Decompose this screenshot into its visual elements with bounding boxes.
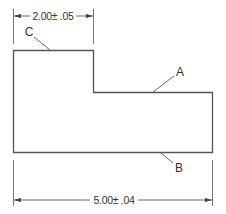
callout-c-label: C: [25, 25, 34, 39]
callout-a: A: [153, 65, 184, 92]
callout-b: B: [161, 153, 183, 175]
bottom-dimension-label: 5.00± .04: [93, 194, 134, 206]
callout-c: C: [25, 25, 50, 50]
callout-a-label: A: [176, 65, 184, 79]
top-dimension-label: 2.00± .05: [32, 10, 73, 22]
callout-b-label: B: [175, 161, 183, 175]
technical-drawing: 2.00± .05 5.00± .04 C A B: [0, 0, 226, 214]
